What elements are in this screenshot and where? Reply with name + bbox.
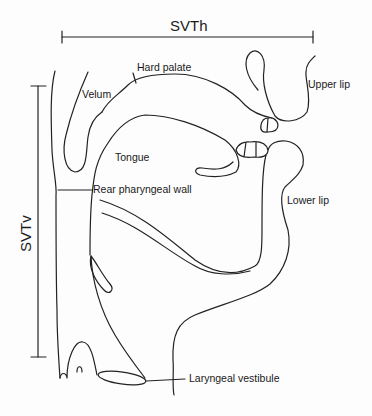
laryngopharynx-line <box>91 256 145 378</box>
laryngeal-vestibule-shape <box>97 369 146 388</box>
hard-palate-outline <box>102 74 272 118</box>
velum-label: Velum <box>82 89 111 100</box>
tongue-root-line-lower <box>102 213 250 274</box>
upper-teeth <box>261 118 278 132</box>
laryngeal-vestibule-pointer <box>146 379 185 381</box>
lower-teeth <box>236 142 268 158</box>
epiglottis <box>90 256 112 292</box>
tongue-root-line-upper <box>100 155 266 273</box>
svth-label: SVTh <box>170 18 208 33</box>
lower-lip-outline <box>173 141 303 395</box>
laryngeal-vestibule-label: Laryngeal vestibule <box>189 373 279 384</box>
arytenoid-bumps <box>60 342 97 378</box>
tongue-label: Tongue <box>115 152 149 163</box>
rear-pharyngeal-wall-line <box>51 71 60 378</box>
velum-outline <box>64 72 102 172</box>
lower-lip-label: Lower lip <box>287 195 329 206</box>
rear-pharyngeal-wall-label: Rear pharyngeal wall <box>93 184 192 195</box>
svtv-label: SVTv <box>18 215 33 252</box>
vocal-tract-diagram: SVTh SVTv Hard palate Velum Upper lip To… <box>0 0 372 416</box>
upper-lip-label: Upper lip <box>308 79 350 90</box>
hard-palate-label: Hard palate <box>137 62 191 73</box>
upper-lip-outline <box>246 51 315 121</box>
